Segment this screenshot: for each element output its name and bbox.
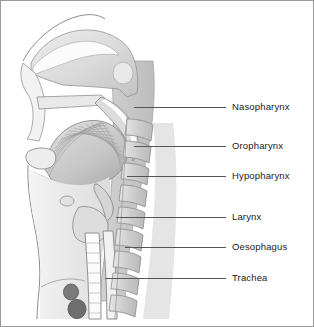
leader-line-oesophagus: [125, 247, 226, 248]
label-hypopharynx: Hypopharynx: [232, 171, 290, 181]
leader-line-larynx: [116, 217, 226, 218]
anatomical-figure: Nasopharynx Oropharynx Hypopharynx Laryn…: [0, 0, 314, 327]
label-oropharynx: Oropharynx: [232, 141, 283, 151]
label-oesophagus: Oesophagus: [232, 242, 287, 252]
label-trachea: Trachea: [232, 273, 268, 283]
leader-line-oropharynx: [134, 146, 226, 147]
leader-line-hypopharynx: [127, 176, 226, 177]
label-larynx: Larynx: [232, 212, 261, 222]
label-callouts: Nasopharynx Oropharynx Hypopharynx Laryn…: [1, 1, 314, 327]
leader-line-nasopharynx: [134, 107, 226, 108]
label-nasopharynx: Nasopharynx: [232, 102, 290, 112]
leader-line-trachea: [105, 278, 226, 279]
